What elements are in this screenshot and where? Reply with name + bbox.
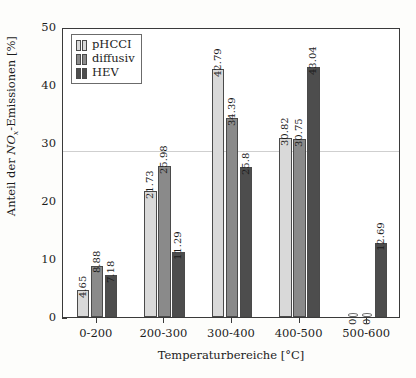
legend-item: HEV — [76, 66, 135, 80]
bar — [293, 139, 306, 317]
legend-item: pHCCI — [76, 38, 135, 52]
legend-item: diffusiv — [76, 52, 135, 66]
x-tick-mark — [96, 318, 97, 323]
bar-value-label: 11.29 — [173, 231, 183, 260]
bar-value-label: 42.79 — [213, 48, 223, 77]
y-axis-title: Anteil der NOx-Emissionen [%] — [4, 0, 20, 256]
y-tick-label: 50 — [28, 22, 56, 34]
bar — [158, 166, 171, 317]
y-axis-title-nox: NOx — [4, 131, 18, 155]
bar-value-label: 34.39 — [227, 97, 237, 126]
legend-swatch-diffusiv — [76, 54, 88, 65]
bar — [240, 167, 253, 317]
legend: pHCCI diffusiv HEV — [71, 34, 142, 84]
bar — [226, 118, 239, 317]
bar — [91, 266, 104, 318]
bar-value-label: 25.98 — [159, 146, 169, 175]
bar-value-label: 30.75 — [294, 118, 304, 147]
legend-label: pHCCI — [92, 39, 132, 51]
bar — [212, 69, 225, 317]
bar — [348, 313, 358, 317]
x-tick-mark — [299, 318, 300, 323]
bar-value-label: 7.18 — [106, 261, 116, 283]
bar-value-label: 43.04 — [308, 47, 318, 76]
bar — [144, 191, 157, 317]
bar — [279, 138, 292, 317]
x-tick-mark — [231, 318, 232, 323]
x-tick-label: 500-600 — [321, 326, 411, 340]
plot-area: 4.658.887.1821.7325.9811.2942.7934.3925.… — [62, 28, 400, 318]
x-tick-mark — [366, 318, 367, 323]
legend-label: HEV — [92, 67, 119, 79]
bar — [375, 243, 388, 317]
legend-swatch-icon — [82, 54, 87, 65]
y-tick-label: 20 — [28, 196, 56, 208]
bar-value-label: 4.65 — [78, 276, 88, 298]
bar-value-label: 25.8 — [241, 153, 251, 175]
y-axis-title-suffix: -Emissionen [%] — [4, 36, 18, 130]
y-tick-label: 10 — [28, 254, 56, 266]
bar — [307, 67, 320, 317]
legend-swatch-icon — [82, 40, 87, 51]
legend-swatch-icon — [76, 68, 81, 79]
legend-swatch-icon — [76, 54, 81, 65]
legend-swatch-icon — [82, 68, 87, 79]
x-axis-title: Temperaturbereiche [°C] — [62, 348, 400, 362]
y-tick-label: 0 — [28, 312, 56, 324]
bar-value-label: 21.73 — [145, 170, 155, 199]
y-tick-label: 40 — [28, 80, 56, 92]
bar — [362, 313, 372, 317]
legend-swatch-icon — [76, 40, 81, 51]
y-tick-label: 30 — [28, 138, 56, 150]
bar-chart: Anteil der NOx-Emissionen [%] 0102030405… — [0, 0, 416, 378]
bar-value-label: 30.82 — [280, 118, 290, 147]
legend-swatch-phcci — [76, 40, 88, 51]
x-tick-mark — [163, 318, 164, 323]
x-axis: Temperaturbereiche [°C] 0-200200-300300-… — [62, 318, 400, 378]
bar-value-label: 12.69 — [376, 223, 386, 252]
legend-label: diffusiv — [92, 53, 135, 65]
legend-swatch-hev — [76, 68, 88, 79]
bar — [172, 252, 185, 317]
bar-value-label: 8.88 — [92, 251, 102, 273]
y-axis-title-prefix: Anteil der — [4, 155, 18, 216]
